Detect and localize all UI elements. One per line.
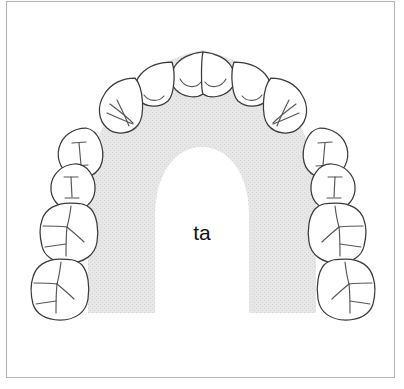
tooth-upper-right-first-molar[interactable]: [40, 203, 98, 263]
center-label: ta: [193, 221, 211, 244]
tooth-upper-left-first-molar[interactable]: [308, 203, 366, 263]
dental-arch-diagram: ta: [0, 0, 404, 389]
dental-arch-figure: ta: [0, 0, 404, 389]
tooth-upper-left-canine[interactable]: [263, 78, 306, 133]
tooth-upper-left-second-molar[interactable]: [317, 259, 375, 320]
tooth-upper-right-canine[interactable]: [99, 78, 142, 133]
tooth-upper-right-second-molar[interactable]: [31, 259, 89, 320]
